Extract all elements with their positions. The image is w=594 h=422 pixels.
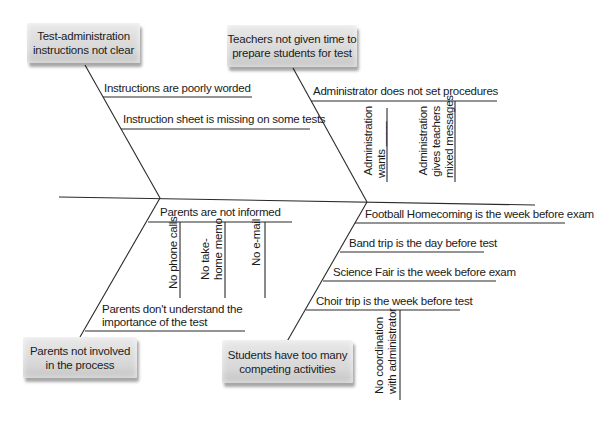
category-label-line2: in the process xyxy=(30,358,130,372)
subcause-line: wants ____ xyxy=(375,106,388,178)
cause-line: importance of the test xyxy=(102,316,242,329)
category-label-line1: Teachers not given time to xyxy=(227,32,356,46)
cause-line: Parents don't understand the xyxy=(102,303,242,316)
subcause-line: with administrator xyxy=(386,314,399,394)
subcause-label: No coordination with administrator xyxy=(373,314,399,394)
cause-label: Science Fair is the week before exam xyxy=(333,266,516,279)
subcause-line: mixed messages xyxy=(443,106,456,178)
cause-label: Parents don't understand the importance … xyxy=(102,303,242,329)
subcause-line: No coordination xyxy=(373,314,386,394)
category-label-line2: instructions not clear xyxy=(33,43,134,57)
category-label-line2: prepare students for test xyxy=(227,46,356,60)
category-label-line1: Test-administration xyxy=(33,29,134,43)
spine-line xyxy=(59,197,535,205)
cause-label: Instruction sheet is missing on some tes… xyxy=(123,113,325,126)
category-label-line2: competing activities xyxy=(228,362,348,376)
subcause-label: No phone calls xyxy=(167,225,180,289)
category-box-parents: Parents not involved in the process xyxy=(23,337,137,378)
cause-label: Instructions are poorly worded xyxy=(104,82,251,95)
subcause-line: No phone calls xyxy=(167,225,180,289)
cause-label: Football Homecoming is the week before e… xyxy=(365,208,594,221)
category-box-instructions: Test-administration instructions not cle… xyxy=(27,23,140,63)
subcause-line: home memo xyxy=(212,225,225,280)
subcause-line: Administration xyxy=(417,106,430,178)
cause-label: Administrator does not set procedures xyxy=(313,85,498,98)
category-box-teachers: Teachers not given time to prepare stude… xyxy=(227,25,357,67)
cause-label: Choir trip is the week before test xyxy=(316,295,472,308)
subcause-line: Administration xyxy=(362,106,375,178)
category-box-students: Students have too many competing activit… xyxy=(222,340,353,383)
subcause-line: No take- xyxy=(199,225,212,280)
subcause-label: Administration gives teachers mixed mess… xyxy=(417,106,456,178)
category-label-line1: Students have too many xyxy=(228,348,348,362)
category-label-line1: Parents not involved xyxy=(30,344,130,358)
subcause-label: No e-mail xyxy=(250,222,263,266)
subcause-label: Administration wants ____ xyxy=(362,106,388,178)
cause-label: Band trip is the day before test xyxy=(349,237,497,250)
subcause-line: No e-mail xyxy=(250,222,263,266)
subcause-label: No take- home memo xyxy=(199,225,225,280)
subcause-line: gives teachers xyxy=(430,106,443,178)
